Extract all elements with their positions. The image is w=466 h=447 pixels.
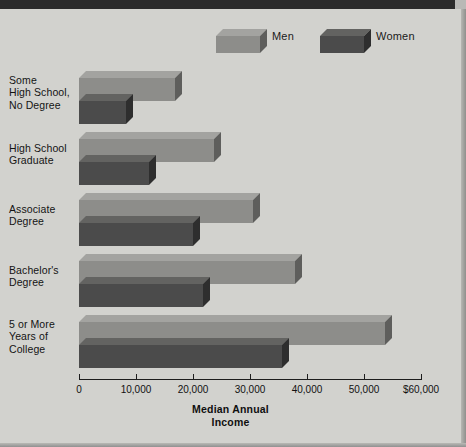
plot-area: MenWomen SomeHigh School,No DegreeHigh S… bbox=[0, 9, 461, 443]
top-border-strip bbox=[0, 0, 466, 9]
legend-swatch-icon bbox=[216, 29, 260, 46]
legend-label: Men bbox=[272, 30, 294, 42]
category-label: Bachelor'sDegree bbox=[9, 264, 75, 289]
category-label: High SchoolGraduate bbox=[9, 142, 75, 167]
x-axis-tick-mark bbox=[250, 374, 251, 380]
chart-figure: MenWomen SomeHigh School,No DegreeHigh S… bbox=[0, 0, 466, 447]
x-axis-title: Median Annual Income bbox=[0, 403, 461, 429]
bar-front-face bbox=[79, 223, 193, 246]
legend-label: Women bbox=[376, 30, 415, 42]
bar-women bbox=[79, 94, 133, 124]
bar-side-face bbox=[214, 132, 221, 162]
bar-women bbox=[79, 338, 289, 368]
bar-top-face bbox=[79, 132, 221, 139]
bar-side-face bbox=[126, 94, 133, 124]
bar-top-face bbox=[79, 155, 156, 162]
bar-top-face bbox=[79, 216, 200, 223]
bar-side-face bbox=[193, 216, 200, 246]
bar-top-face bbox=[79, 315, 392, 322]
bar-front-face bbox=[79, 162, 149, 185]
x-axis-tick-label: $60,000 bbox=[381, 384, 461, 395]
bar-front-face bbox=[79, 101, 126, 124]
x-axis-title-line1: Median Annual bbox=[192, 403, 269, 415]
bar-side-face bbox=[385, 315, 392, 345]
x-axis-title-line2: Income bbox=[212, 416, 250, 428]
category-label-line: No Degree bbox=[9, 99, 75, 111]
x-axis-tick-mark bbox=[193, 374, 194, 380]
category-label: 5 or MoreYears ofCollege bbox=[9, 318, 75, 355]
bar-side-face bbox=[253, 193, 260, 223]
category-label-line: High School, bbox=[9, 86, 75, 98]
bar-women bbox=[79, 155, 156, 185]
category-label-line: High School bbox=[9, 142, 75, 154]
bar-top-face bbox=[79, 254, 302, 261]
x-axis-tick-mark bbox=[307, 374, 308, 380]
bar-side-face bbox=[175, 71, 182, 101]
bar-side-face bbox=[149, 155, 156, 185]
bar-side-face bbox=[203, 277, 210, 307]
bar-top-face bbox=[79, 338, 289, 345]
bar-top-face bbox=[79, 193, 260, 200]
category-label: AssociateDegree bbox=[9, 203, 75, 228]
bar-top-face bbox=[79, 94, 133, 101]
bar-top-face bbox=[79, 277, 210, 284]
category-label-line: College bbox=[9, 343, 75, 355]
bar-top-face bbox=[79, 71, 182, 78]
right-edge-shadow bbox=[461, 9, 466, 447]
bar-women bbox=[79, 216, 200, 246]
category-label-line: 5 or More bbox=[9, 318, 75, 330]
chart-legend: MenWomen bbox=[0, 9, 461, 55]
top-border-cap bbox=[455, 0, 466, 9]
category-label-line: Years of bbox=[9, 330, 75, 342]
category-label-line: Associate bbox=[9, 203, 75, 215]
category-label: SomeHigh School,No Degree bbox=[9, 74, 75, 111]
bar-side-face bbox=[295, 254, 302, 284]
category-label-line: Some bbox=[9, 74, 75, 86]
bar-side-face bbox=[282, 338, 289, 368]
x-axis-tick-mark bbox=[136, 374, 137, 380]
x-axis-tick-mark bbox=[364, 374, 365, 380]
category-label-line: Bachelor's bbox=[9, 264, 75, 276]
x-axis-tick-mark bbox=[421, 374, 422, 380]
category-label-line: Graduate bbox=[9, 154, 75, 166]
category-label-line: Degree bbox=[9, 276, 75, 288]
legend-swatch-icon bbox=[320, 29, 364, 46]
bar-women bbox=[79, 277, 210, 307]
bottom-edge-shadow bbox=[0, 443, 466, 447]
category-label-line: Degree bbox=[9, 215, 75, 227]
x-axis-tick-mark bbox=[79, 374, 80, 380]
bar-front-face bbox=[79, 284, 203, 307]
bar-front-face bbox=[79, 345, 282, 368]
